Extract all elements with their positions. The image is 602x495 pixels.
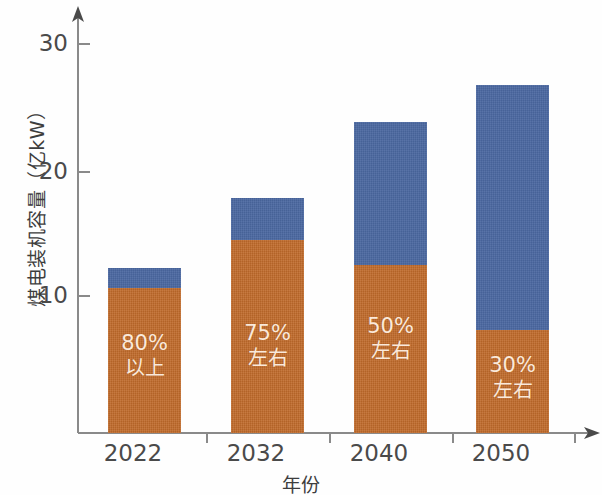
bar-segment-other-2050 (476, 85, 549, 330)
stacked-bar-chart: 30 20 10 煤电装机容量（亿kW） 80% 以上 (0, 0, 602, 495)
bar-annotation-qual-2040: 左右 (354, 339, 427, 364)
bar-annotation-qual-2022: 以上 (108, 356, 181, 381)
bar-segment-coal-2032: 75% 左右 (231, 240, 304, 433)
bar-segment-coal-2022: 80% 以上 (108, 288, 181, 433)
bar-annotation-2032: 75% 左右 (231, 320, 304, 371)
bar-annotation-2022: 80% 以上 (108, 330, 181, 381)
y-axis-title: 煤电装机容量（亿kW） (22, 74, 49, 334)
x-axis-title: 年份 (0, 470, 602, 495)
bar-annotation-pct-2022: 80% (121, 331, 168, 355)
bar-segment-coal-2040: 50% 左右 (354, 265, 427, 433)
y-tick-label-30: 30 (22, 30, 68, 56)
x-tick-label-2032: 2032 (206, 440, 306, 466)
bar-group-2022[interactable]: 80% 以上 (108, 268, 181, 433)
x-tick-label-2022: 2022 (83, 440, 183, 466)
bar-group-2032[interactable]: 75% 左右 (231, 198, 304, 433)
bar-annotation-qual-2032: 左右 (231, 346, 304, 371)
x-tick-label-2050: 2050 (451, 440, 551, 466)
bar-segment-other-2022 (108, 268, 181, 288)
bar-annotation-pct-2032: 75% (244, 321, 291, 345)
bar-annotation-qual-2050: 左右 (476, 378, 549, 403)
bar-group-2050[interactable]: 30% 左右 (476, 85, 549, 433)
bar-segment-other-2032 (231, 198, 304, 240)
bar-segment-coal-2050: 30% 左右 (476, 330, 549, 433)
bar-annotation-pct-2050: 30% (489, 353, 536, 377)
x-tick-label-2040: 2040 (329, 440, 429, 466)
bar-segment-other-2040 (354, 122, 427, 265)
bar-group-2040[interactable]: 50% 左右 (354, 122, 427, 433)
bar-annotation-2040: 50% 左右 (354, 313, 427, 364)
bar-annotation-2050: 30% 左右 (476, 352, 549, 403)
plot-area: 80% 以上 75% 左右 (78, 10, 594, 433)
bar-annotation-pct-2040: 50% (367, 314, 414, 338)
